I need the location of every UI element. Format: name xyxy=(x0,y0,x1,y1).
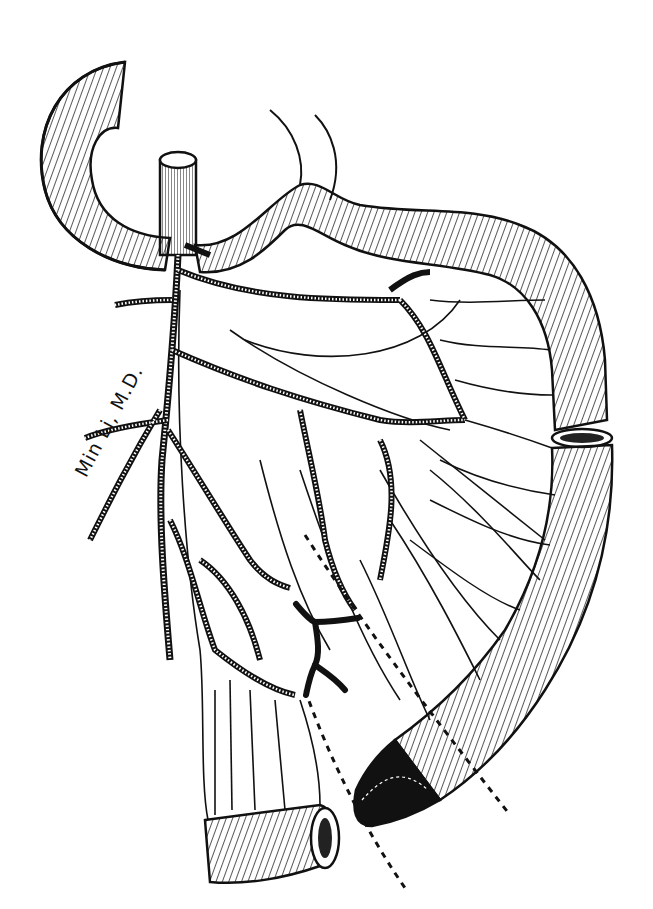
upper-left-bowel-loop xyxy=(41,62,170,270)
illustration-canvas: Min Li, M.D. xyxy=(0,0,653,909)
lower-cut-bowel-end xyxy=(205,805,339,883)
ligated-dark-vessel xyxy=(296,604,358,695)
vascular-arcades xyxy=(85,245,555,695)
right-descending-bowel-segment xyxy=(395,445,612,800)
